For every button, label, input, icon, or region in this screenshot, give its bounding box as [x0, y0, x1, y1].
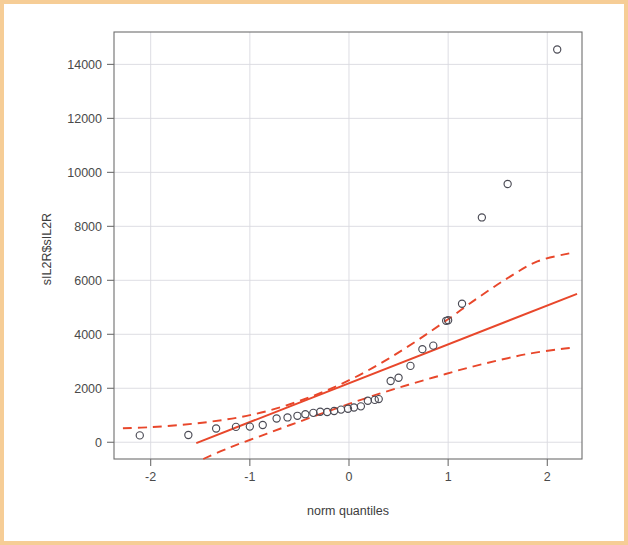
data-point	[364, 397, 371, 404]
tick-marks-group	[107, 64, 547, 466]
data-point	[478, 214, 485, 221]
plot-frame	[114, 32, 582, 459]
x-tick-label: -2	[145, 470, 156, 484]
y-tick-label: 6000	[74, 274, 102, 288]
data-point	[419, 346, 426, 353]
data-point	[185, 431, 192, 438]
data-point	[554, 46, 561, 53]
y-tick-label: 14000	[67, 58, 102, 72]
x-tick-label: 1	[445, 470, 452, 484]
data-point	[387, 377, 394, 384]
x-axis-title: norm quantiles	[307, 504, 389, 518]
data-point	[407, 362, 414, 369]
qq-plot-chart: -2-1012 02000400060008000100001200014000…	[4, 4, 628, 545]
y-tick-label: 2000	[74, 382, 102, 396]
data-point	[357, 403, 364, 410]
plot-area-wrapper: -2-1012 02000400060008000100001200014000…	[4, 4, 628, 545]
data-point	[324, 408, 331, 415]
data-point	[430, 342, 437, 349]
reference-fit-line	[196, 294, 577, 443]
data-point	[395, 374, 402, 381]
data-point	[273, 415, 280, 422]
y-tick-label: 4000	[74, 328, 102, 342]
data-point	[213, 425, 220, 432]
data-point	[259, 421, 266, 428]
y-tick-labels-group: 02000400060008000100001200014000	[67, 58, 102, 450]
y-tick-label: 12000	[67, 112, 102, 126]
x-tick-label: -1	[244, 470, 255, 484]
data-point	[136, 432, 143, 439]
x-tick-label: 2	[544, 470, 551, 484]
data-point	[294, 412, 301, 419]
confidence-envelope-group	[123, 253, 572, 459]
data-point	[310, 409, 317, 416]
y-tick-label: 8000	[74, 220, 102, 234]
data-point	[302, 411, 309, 418]
data-point	[458, 300, 465, 307]
gridlines-group	[114, 32, 582, 459]
y-tick-label: 0	[95, 436, 102, 450]
figure-container: -2-1012 02000400060008000100001200014000…	[0, 0, 628, 545]
x-tick-labels-group: -2-1012	[145, 470, 551, 484]
x-tick-label: 0	[346, 470, 353, 484]
data-point	[337, 406, 344, 413]
data-point	[504, 180, 511, 187]
y-axis-title: sIL2R$sIL2R	[40, 213, 54, 285]
y-tick-label: 10000	[67, 166, 102, 180]
data-point	[284, 414, 291, 421]
envelope-upper-line	[123, 253, 572, 428]
